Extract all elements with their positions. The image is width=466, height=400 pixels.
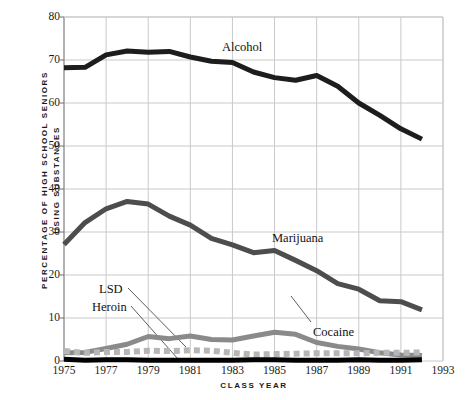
series-line-heroin — [64, 359, 422, 360]
x-axis-title: CLASS YEAR — [64, 381, 444, 390]
y-axis-tick-70: 70 — [34, 54, 60, 66]
substance-use-line-chart: PERCENTAGE OF HIGH SCHOOL SENIORSUSING S… — [0, 0, 466, 400]
x-axis-tick-1979: 1979 — [128, 364, 168, 376]
plot-area — [0, 0, 466, 400]
x-axis-tick-1993: 1993 — [423, 364, 463, 376]
y-axis-tick-50: 50 — [34, 140, 60, 152]
x-axis-tick-1981: 1981 — [170, 364, 210, 376]
y-axis-tick-20: 20 — [34, 269, 60, 281]
series-label-cocaine: Cocaine — [313, 326, 354, 339]
series-label-lsd: LSD — [99, 283, 123, 296]
y-axis-tick-60: 60 — [34, 97, 60, 109]
series-label-alcohol: Alcohol — [222, 41, 262, 54]
x-axis-tick-1985: 1985 — [255, 364, 295, 376]
series-label-marijuana: Marijuana — [272, 232, 323, 245]
series-label-heroin: Heroin — [92, 301, 127, 314]
x-axis-tick-1987: 1987 — [297, 364, 337, 376]
series-line-lsd — [64, 350, 422, 354]
x-axis-tick-1989: 1989 — [339, 364, 379, 376]
y-axis-tick-30: 30 — [34, 226, 60, 238]
x-axis-tick-1975: 1975 — [44, 364, 84, 376]
y-axis-tick-labels: 01020304050607080 — [30, 0, 60, 400]
series-line-alcohol — [64, 51, 422, 139]
y-axis-tick-10: 10 — [34, 312, 60, 324]
y-axis-tick-80: 80 — [34, 11, 60, 23]
x-axis-tick-1991: 1991 — [381, 364, 421, 376]
y-axis-tick-40: 40 — [34, 183, 60, 195]
x-axis-tick-1983: 1983 — [212, 364, 252, 376]
x-axis-tick-1977: 1977 — [86, 364, 126, 376]
